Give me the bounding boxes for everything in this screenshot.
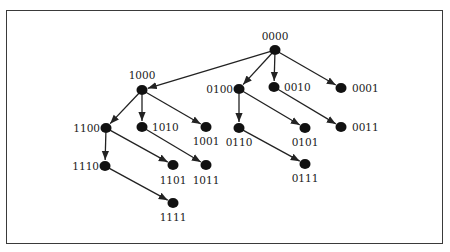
node-label-0010: 0010 (284, 81, 311, 93)
labels-group: 0000100001000010000111001010100101100101… (72, 30, 378, 223)
node-label-0100: 0100 (206, 83, 233, 95)
node-0110 (234, 123, 245, 133)
edge-1100-1101 (110, 130, 168, 162)
edge-1000-1001 (146, 92, 201, 124)
node-label-0011: 0011 (352, 121, 379, 133)
node-label-1001: 1001 (193, 135, 220, 147)
node-1011 (201, 160, 212, 170)
edge-0000-0010 (274, 54, 275, 81)
edge-1100-1110 (105, 132, 106, 160)
tree-graph: 0000100001000010000111001010100101100101… (0, 0, 450, 252)
node-0000 (270, 45, 281, 55)
node-label-0110: 0110 (226, 136, 253, 148)
node-0001 (336, 83, 347, 93)
edge-1000-1100 (110, 93, 139, 123)
edge-0010-0011 (278, 89, 336, 124)
node-0010 (269, 82, 280, 92)
node-1010 (137, 122, 148, 132)
node-label-1100: 1100 (73, 122, 100, 134)
node-label-1010: 1010 (152, 121, 179, 133)
node-label-1000: 1000 (129, 69, 156, 81)
node-0101 (300, 123, 311, 133)
node-label-1011: 1011 (193, 174, 220, 186)
node-label-0000: 0000 (262, 30, 289, 42)
node-1110 (100, 161, 111, 171)
node-label-1111: 1111 (160, 211, 187, 223)
node-label-1110: 1110 (72, 160, 99, 172)
node-1111 (168, 198, 179, 208)
node-label-0111: 0111 (292, 172, 319, 184)
node-label-0001: 0001 (352, 82, 379, 94)
node-1000 (137, 85, 148, 95)
node-0111 (300, 159, 311, 169)
node-label-1101: 1101 (160, 174, 187, 186)
node-1100 (101, 123, 112, 133)
edge-0100-0101 (243, 91, 300, 125)
node-0100 (234, 84, 245, 94)
node-1001 (201, 122, 212, 132)
node-0011 (336, 122, 347, 132)
node-label-0101: 0101 (292, 136, 319, 148)
node-1101 (168, 160, 179, 170)
